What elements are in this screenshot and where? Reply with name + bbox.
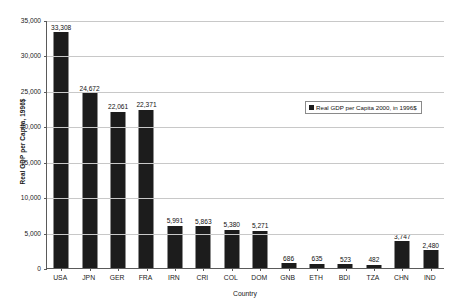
x-tick-label-ger: GER [110,274,125,281]
x-tick-mark [118,268,119,271]
y-tick-mark [44,198,47,199]
bar-value-label: 24,672 [80,85,100,92]
bar-group: 33,308 [47,21,75,268]
bar-value-label: 33,308 [51,24,71,31]
bar-group: 635 [303,21,331,268]
bar-group: 22,061 [104,21,132,268]
x-tick-mark [346,268,347,271]
y-tick-mark [44,127,47,128]
x-tick-label-usa: USA [53,274,67,281]
x-tick-mark [232,268,233,271]
bar-group: 5,863 [189,21,217,268]
x-tick-label-col: COL [224,274,238,281]
x-axis-title: Country [46,290,444,297]
bar-value-label: 635 [312,255,323,262]
x-tick-label-cri: CRI [196,274,208,281]
gridline [47,198,444,199]
x-tick-mark [402,268,403,271]
x-tick-mark [289,268,290,271]
y-tick-mark [44,163,47,164]
x-tick-mark [374,268,375,271]
x-tick-label-jpn: JPN [82,274,95,281]
y-tick-label: 20,000 [0,123,41,130]
y-tick-mark [44,56,47,57]
gridline [47,21,444,22]
gridline [47,163,444,164]
bar [224,230,239,268]
x-tick-label-ind: IND [424,274,436,281]
bar-value-label: 5,271 [252,222,269,229]
x-tick-mark [147,268,148,271]
x-tick-mark [90,268,91,271]
x-tick-mark [203,268,204,271]
plot-area: 33,30824,67222,06122,3715,9915,8635,3805… [46,21,444,269]
legend: Real GDP per Capita 2000, in 1996$ [305,101,422,114]
y-tick-label: 10,000 [0,194,41,201]
y-tick-label: 15,000 [0,159,41,166]
y-tick-label: 0 [0,265,41,272]
y-tick-label: 35,000 [0,17,41,24]
bar [395,241,410,268]
bar-value-label: 5,991 [167,217,184,224]
bar-group: 5,271 [246,21,274,268]
x-tick-label-chn: CHN [394,274,409,281]
bar [139,110,154,269]
y-tick-label: 5,000 [0,230,41,237]
x-tick-label-bdi: BDI [339,274,350,281]
y-tick-label: 25,000 [0,88,41,95]
y-tick-mark [44,234,47,235]
y-tick-mark [44,269,47,270]
x-tick-mark [175,268,176,271]
bar-group: 24,672 [75,21,103,268]
bars-layer: 33,30824,67222,06122,3715,9915,8635,3805… [47,21,444,268]
x-tick-label-fra: FRA [139,274,153,281]
x-tick-mark [260,268,261,271]
x-tick-label-tza: TZA [367,274,380,281]
x-tick-label-dom: DOM [251,274,267,281]
bar-chart: Real GDP per Capita, 1996$ 33,30824,6722… [0,0,454,308]
bar-group: 686 [274,21,302,268]
bar-value-label: 523 [340,256,351,263]
x-tick-mark [317,268,318,271]
y-tick-label: 30,000 [0,52,41,59]
bar [111,112,126,268]
bar-value-label: 22,371 [136,101,156,108]
x-tick-mark [61,268,62,271]
bar-group: 2,480 [417,21,445,268]
bar [167,226,182,268]
bar-group: 22,371 [132,21,160,268]
bar-group: 523 [331,21,359,268]
bar-group: 5,991 [161,21,189,268]
gridline [47,127,444,128]
bar-group: 3,747 [388,21,416,268]
bar-value-label: 5,380 [224,221,241,228]
bar-value-label: 482 [368,256,379,263]
bar [253,231,268,268]
x-tick-label-eth: ETH [309,274,323,281]
x-tick-mark [431,268,432,271]
legend-label: Real GDP per Capita 2000, in 1996$ [316,104,417,111]
gridline [47,234,444,235]
bar-group: 5,380 [218,21,246,268]
bar-value-label: 22,061 [108,103,128,110]
y-tick-mark [44,21,47,22]
gridline [47,92,444,93]
bar-value-label: 5,863 [195,218,212,225]
x-tick-label-irn: IRN [168,274,180,281]
bar-value-label: 686 [283,255,294,262]
legend-swatch-icon [309,105,314,110]
gridline [47,56,444,57]
y-tick-mark [44,92,47,93]
bar [423,250,438,268]
bar [82,93,97,268]
bar-value-label: 2,480 [423,242,440,249]
bar-group: 482 [360,21,388,268]
x-tick-label-gnb: GNB [280,274,295,281]
